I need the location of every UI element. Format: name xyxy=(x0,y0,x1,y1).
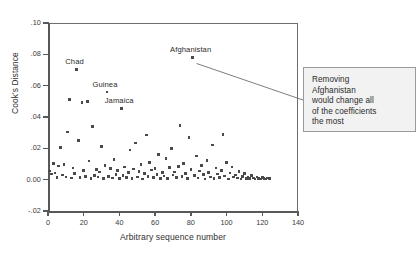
scatter-point xyxy=(98,171,101,174)
scatter-point xyxy=(232,176,235,179)
scatter-point xyxy=(195,155,198,158)
y-axis-title: Cook's Distance xyxy=(10,23,20,143)
scatter-point xyxy=(213,177,216,180)
scatter-point xyxy=(147,175,150,178)
scatter-point xyxy=(93,174,96,177)
scatter-point xyxy=(57,165,60,168)
afghanistan-callout-text: RemovingAfghanistanwould change allof th… xyxy=(312,75,412,128)
scatter-point xyxy=(243,172,246,175)
scatter-point xyxy=(138,170,141,173)
scatter-point xyxy=(220,169,223,172)
y-tick xyxy=(43,54,49,55)
scatter-point xyxy=(152,176,155,179)
x-tick xyxy=(119,211,120,216)
scatter-point xyxy=(132,168,135,171)
scatter-point xyxy=(56,176,59,179)
scatter-point xyxy=(109,167,112,170)
scatter-point xyxy=(91,125,94,128)
scatter-point xyxy=(116,169,119,172)
scatter-point xyxy=(209,176,212,179)
scatter-point xyxy=(75,68,78,71)
scatter-point xyxy=(131,177,134,180)
scatter-point xyxy=(102,177,105,180)
scatter-point xyxy=(229,172,232,175)
x-tick xyxy=(190,211,191,216)
x-tick-label: 0 xyxy=(33,218,63,227)
callout-line: of the coefficients xyxy=(312,107,412,118)
scatter-point xyxy=(184,172,187,175)
scatter-point xyxy=(120,107,123,110)
y-tick-label-wrap: 0.00 xyxy=(8,176,41,184)
point-label-chad: Chad xyxy=(65,57,84,66)
scatter-point xyxy=(52,162,55,165)
scatter-point xyxy=(173,171,176,174)
scatter-point xyxy=(200,164,203,167)
scatter-point xyxy=(268,177,271,180)
scatter-point xyxy=(61,174,64,177)
x-tick xyxy=(83,211,84,216)
point-label-guinea: Guinea xyxy=(92,80,117,89)
scatter-point xyxy=(206,159,209,162)
scatter-point xyxy=(125,176,128,179)
scatter-point xyxy=(157,153,160,156)
scatter-point xyxy=(129,149,132,152)
x-tick xyxy=(47,211,48,216)
x-tick-label: 140 xyxy=(283,218,313,227)
scatter-point xyxy=(172,174,175,177)
y-tick xyxy=(43,179,49,180)
scatter-point xyxy=(73,172,76,175)
scatter-point xyxy=(97,176,100,179)
scatter-point xyxy=(227,178,230,181)
scatter-point xyxy=(163,175,166,178)
scatter-point xyxy=(136,176,139,179)
scatter-point xyxy=(211,144,214,147)
y-tick-label-wrap: .02 xyxy=(8,144,41,152)
scatter-point xyxy=(113,158,116,161)
scatter-point xyxy=(115,173,118,176)
scatter-point xyxy=(148,161,151,164)
scatter-point xyxy=(68,98,71,101)
scatter-point xyxy=(79,176,82,179)
scatter-point xyxy=(161,171,164,174)
scatter-point xyxy=(216,173,219,176)
callout-line: Afghanistan xyxy=(312,86,412,97)
scatter-point xyxy=(84,175,87,178)
scatter-point xyxy=(182,162,185,165)
scatter-point xyxy=(207,171,210,174)
scatter-point xyxy=(70,177,73,180)
scatter-point xyxy=(202,173,205,176)
scatter-point xyxy=(106,91,109,94)
scatter-point xyxy=(88,160,91,163)
scatter-point xyxy=(159,177,162,180)
scatter-point xyxy=(90,177,93,180)
scatter-point xyxy=(236,177,239,180)
y-tick-label: .02 xyxy=(15,144,41,152)
scatter-point xyxy=(50,173,53,176)
scatter-point xyxy=(154,167,157,170)
scatter-point xyxy=(134,142,137,145)
x-tick-label: 60 xyxy=(140,218,170,227)
scatter-point xyxy=(191,56,194,59)
scatter-point xyxy=(186,177,189,180)
scatter-point xyxy=(63,163,66,166)
scatter-point xyxy=(77,139,80,142)
scatter-point xyxy=(190,168,193,171)
scatter-point xyxy=(140,163,143,166)
scatter-point xyxy=(170,147,173,150)
x-axis-line xyxy=(48,211,298,213)
scatter-point xyxy=(143,172,146,175)
scatter-point xyxy=(238,170,241,173)
scatter-point xyxy=(204,178,207,181)
scatter-point xyxy=(193,174,196,177)
scatter-point xyxy=(81,101,84,104)
x-tick-label: 40 xyxy=(104,218,134,227)
scatter-point xyxy=(66,131,69,134)
scatter-point xyxy=(165,157,168,160)
y-tick-label: -.02 xyxy=(15,207,41,215)
scatter-point xyxy=(100,145,103,148)
scatter-point xyxy=(104,164,107,167)
scatter-point xyxy=(145,134,148,137)
y-tick xyxy=(43,22,49,23)
y-tick xyxy=(43,116,49,117)
x-tick-label: 100 xyxy=(212,218,242,227)
